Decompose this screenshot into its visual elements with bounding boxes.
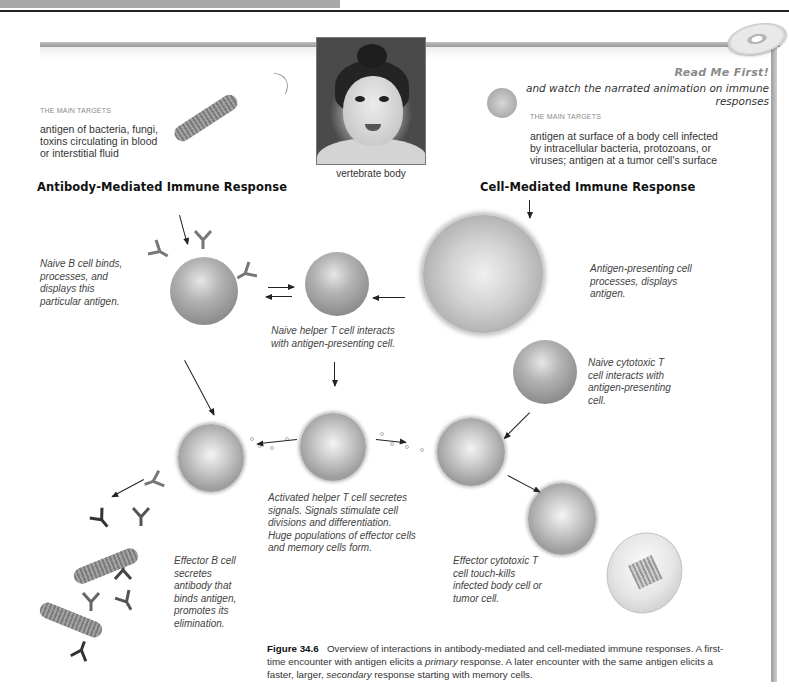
signal-dot [270, 446, 274, 450]
activated-cytotoxic-t-cell [437, 418, 505, 486]
figure-caption-em-1: primary [425, 656, 458, 667]
antibody-icon [86, 504, 117, 535]
activated-helper-t-cell [300, 413, 366, 481]
antibody-targets-label: THE MAIN TARGETS [40, 107, 111, 114]
arrow-cell-heading-to-apc [529, 200, 530, 218]
cell-mediated-heading: Cell-Mediated Immune Response [480, 180, 695, 194]
naive-helper-t-cell [305, 252, 369, 316]
naive-cytotoxic-t-caption: Naive cytotoxic T cell interacts with an… [588, 357, 678, 407]
signal-dot [380, 432, 384, 436]
effector-cytotoxic-t-caption: Effector cytotoxic T cell touch-kills in… [453, 555, 543, 605]
effector-b-cell [178, 424, 244, 492]
infected-body-cell [595, 522, 694, 625]
signal-dot [405, 445, 409, 449]
effector-b-caption: Effector B cell secretes antibody that b… [174, 555, 244, 630]
signal-dot [250, 437, 254, 441]
antibody-icon [111, 586, 141, 616]
signal-dot [390, 442, 394, 446]
antibody-mediated-heading: Antibody-Mediated Immune Response [37, 180, 287, 194]
naive-b-cell-caption: Naive B cell binds, processes, and displ… [40, 258, 130, 308]
figure-caption-em-2: secondary [326, 669, 371, 680]
arrow-cytotoxic-down [504, 412, 530, 438]
naive-helper-t-caption: Naive helper T cell interacts with antig… [268, 325, 398, 350]
arrow-to-effector-cytotoxic [508, 475, 540, 493]
antibody-icon [140, 467, 168, 495]
vertebrate-photo [316, 37, 426, 165]
arrow-b-to-helper [268, 287, 294, 288]
page-header-bar [0, 0, 340, 8]
cell-targets-label: THE MAIN TARGETS [530, 113, 601, 120]
activated-helper-t-caption: Activated helper T cell secretes signals… [268, 492, 418, 555]
read-me-first-link[interactable]: Read Me First! [675, 66, 769, 79]
arrow-helper-to-b-signals [257, 439, 297, 444]
antigen-presenting-cell [423, 215, 543, 333]
photo-caption: vertebrate body [316, 168, 426, 179]
signal-dot [420, 448, 424, 452]
arrow-apc-to-helper [373, 297, 405, 298]
arrow-antibody-to-b [179, 215, 188, 244]
antibody-icon [80, 590, 102, 612]
arrow-helper-to-b [266, 296, 292, 297]
figure-caption-text-3: response starting with memory cells. [372, 669, 533, 680]
antibody-targets-text: antigen of bacteria, fungi, toxins circu… [40, 123, 158, 159]
naive-b-cell [170, 257, 238, 325]
arrow-helper-down [334, 362, 335, 386]
cell-targets-text: antigen at surface of a body cell infect… [530, 130, 730, 166]
antibody-icon [67, 637, 95, 665]
figure-label: Figure 34.6 [267, 643, 319, 654]
naive-cytotoxic-t-cell [513, 340, 577, 404]
animation-link-text[interactable]: and watch the narrated animation on immu… [509, 82, 769, 108]
virus-illustration [487, 88, 517, 118]
figure-caption: Figure 34.6 Overview of interactions in … [267, 642, 737, 681]
arrow-b-to-effector-b [184, 360, 214, 415]
figure-frame-right [771, 42, 777, 682]
arrow-antibody-release [112, 479, 144, 497]
antibody-icon [130, 505, 152, 527]
antibody-icon [144, 236, 174, 266]
antibody-icon [192, 228, 214, 250]
flagellum-illustration [216, 62, 297, 132]
apc-caption: Antigen-presenting cell processes, displ… [590, 263, 700, 301]
page-header-rule [0, 10, 789, 12]
